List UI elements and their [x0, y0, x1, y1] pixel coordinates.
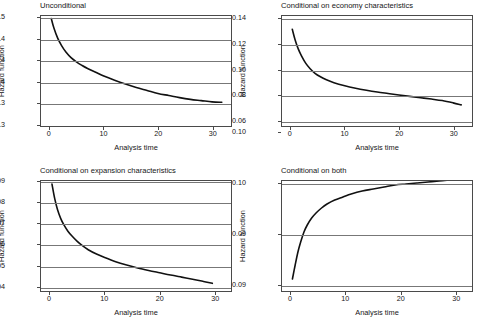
curve-path: [292, 181, 449, 279]
y-tick-label: 0.14: [0, 78, 5, 86]
x-tick-label: 30: [450, 130, 458, 138]
x-tick-mark: [158, 127, 159, 130]
plot-area: [40, 15, 232, 127]
plot-area: [281, 180, 473, 292]
gridline-horizontal: [41, 224, 231, 225]
x-tick-label: 10: [340, 130, 348, 138]
y-tick-mark: [37, 287, 40, 288]
y-tick-mark: [37, 244, 40, 245]
gridline-horizontal: [282, 184, 472, 185]
y-tick-mark: [37, 125, 40, 126]
y-tick-label: 0.06: [232, 117, 246, 125]
gridline-horizontal: [282, 71, 472, 72]
gridline-horizontal: [41, 61, 231, 62]
x-tick-label: 0: [288, 295, 292, 303]
x-tick-label: 30: [209, 130, 217, 138]
x-tick-label: 10: [100, 295, 108, 303]
y-tick-mark: [278, 95, 281, 96]
y-tick-label: 0.12: [232, 40, 246, 48]
gridline-horizontal: [282, 45, 472, 46]
panel-title: Unconditional: [40, 1, 86, 11]
y-tick-label: 0.08: [232, 91, 246, 99]
y-tick-mark: [37, 202, 40, 203]
y-tick-mark: [278, 70, 281, 71]
y-tick-mark: [278, 285, 281, 286]
y-tick-label: 0.13: [0, 121, 5, 129]
x-tick-mark: [399, 127, 400, 130]
x-tick-label: 0: [47, 130, 51, 138]
gridline-horizontal: [41, 182, 231, 183]
gridline-horizontal: [282, 19, 472, 20]
curve-path: [292, 29, 461, 105]
gridline-horizontal: [41, 126, 231, 127]
x-tick-mark: [344, 127, 345, 130]
y-tick-label: 0.09: [232, 281, 246, 289]
x-tick-mark: [290, 127, 291, 130]
x-tick-label: 30: [452, 295, 460, 303]
x-tick-label: 30: [211, 295, 219, 303]
panel-title: Conditional on economy characteristics: [281, 1, 413, 11]
y-tick-label: 0.15: [0, 13, 5, 21]
y-tick-mark: [278, 183, 281, 184]
y-tick-mark: [37, 103, 40, 104]
x-tick-label: 20: [154, 130, 162, 138]
x-tick-mark: [103, 127, 104, 130]
gridline-horizontal: [282, 122, 472, 123]
y-tick-label: 0.07: [0, 219, 5, 227]
y-tick-label: 0.04: [0, 283, 5, 291]
gridline-horizontal: [41, 267, 231, 268]
panel-unconditional: Unconditional Hazard function Analysis t…: [0, 0, 240, 165]
y-tick-label: 0.09: [232, 230, 246, 238]
y-axis-title: Hazard function: [0, 45, 6, 97]
x-tick-mark: [345, 292, 346, 295]
gridline-horizontal: [41, 83, 231, 84]
x-tick-mark: [49, 127, 50, 130]
x-tick-mark: [49, 292, 50, 295]
y-tick-mark: [37, 223, 40, 224]
y-tick-mark: [37, 181, 40, 182]
plot-area: [40, 180, 232, 292]
y-tick-label: 0.10: [232, 128, 246, 136]
y-tick-label: 0.10: [232, 66, 246, 74]
panel-economy: Conditional on economy characteristics H…: [241, 0, 481, 165]
hazard-curve: [41, 181, 231, 291]
x-tick-mark: [401, 292, 402, 295]
panel-title: Conditional on both: [281, 166, 346, 176]
y-tick-label: 0.05: [0, 262, 5, 270]
x-tick-label: 20: [397, 295, 405, 303]
x-tick-label: 0: [47, 295, 51, 303]
x-axis-title: Analysis time: [40, 308, 232, 317]
y-tick-mark: [37, 39, 40, 40]
x-tick-mark: [215, 292, 216, 295]
gridline-horizontal: [41, 245, 231, 246]
hazard-function-figure: Unconditional Hazard function Analysis t…: [0, 0, 481, 330]
x-tick-label: 10: [341, 295, 349, 303]
curve-path: [52, 184, 212, 283]
y-tick-label: 0.08: [0, 198, 5, 206]
y-tick-label: 0.10: [232, 179, 246, 187]
y-tick-label: 0.14: [0, 35, 5, 43]
x-axis-title: Analysis time: [40, 143, 232, 152]
y-tick-mark: [278, 132, 281, 133]
y-tick-mark: [37, 266, 40, 267]
gridline-horizontal: [41, 288, 231, 289]
y-tick-mark: [278, 18, 281, 19]
y-tick-label: 0.06: [0, 240, 5, 248]
y-tick-label: 0.14: [0, 56, 5, 64]
y-tick-mark: [278, 234, 281, 235]
x-tick-mark: [454, 127, 455, 130]
x-tick-mark: [160, 292, 161, 295]
gridline-horizontal: [282, 235, 472, 236]
gridline-horizontal: [282, 96, 472, 97]
y-tick-label: 0.09: [0, 177, 5, 185]
panel-both: Conditional on both Hazard function Anal…: [241, 165, 481, 330]
gridline-horizontal: [41, 203, 231, 204]
gridline-horizontal: [41, 104, 231, 105]
gridline-horizontal: [282, 286, 472, 287]
y-tick-mark: [278, 44, 281, 45]
y-tick-label: 0.14: [232, 14, 246, 22]
plot-area: [281, 15, 473, 127]
x-tick-mark: [213, 127, 214, 130]
hazard-curve: [282, 181, 472, 291]
x-tick-mark: [456, 292, 457, 295]
